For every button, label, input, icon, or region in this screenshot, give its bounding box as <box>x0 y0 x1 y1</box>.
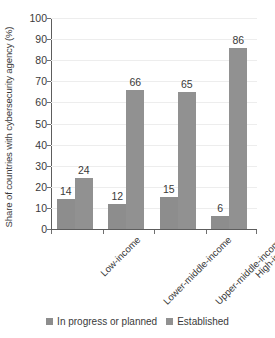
y-axis-title-container: Share of countries with cybersecurity ag… <box>0 14 18 240</box>
x-axis-tick <box>256 230 257 234</box>
y-axis-tick-label: 60 <box>21 97 47 108</box>
gridline <box>51 102 257 103</box>
y-axis-tick-label: 100 <box>21 13 47 24</box>
y-axis-tick <box>47 102 51 103</box>
legend-swatch-icon <box>166 318 173 325</box>
plot-area: 142412661565686 <box>51 18 257 230</box>
y-axis-tick <box>47 187 51 188</box>
legend-item[interactable]: Established <box>166 316 229 327</box>
gridline <box>51 145 257 146</box>
bar <box>108 204 126 229</box>
y-axis-tick <box>47 166 51 167</box>
y-axis-tick-label: 90 <box>21 34 47 45</box>
y-axis-tick-label: 40 <box>21 139 47 150</box>
y-axis-tick <box>47 81 51 82</box>
gridline <box>51 81 257 82</box>
bar-value-label: 14 <box>60 186 72 197</box>
bar <box>178 92 196 229</box>
y-axis-tick-label: 0 <box>21 224 47 235</box>
gridline <box>51 18 257 19</box>
gridline <box>51 60 257 61</box>
x-axis-tick <box>206 230 207 234</box>
y-axis-tick <box>47 145 51 146</box>
chart-legend: In progress or plannedEstablished <box>0 316 275 327</box>
y-axis-tick <box>47 124 51 125</box>
x-axis-tick <box>51 230 52 234</box>
y-axis-tick-label: 20 <box>21 181 47 192</box>
y-axis-tick-labels: 1009080706050403020100 <box>18 0 47 338</box>
x-axis-category-label: Low-income <box>98 234 142 278</box>
y-axis-tick-label: 70 <box>21 76 47 87</box>
y-axis-title: Share of countries with cybersecurity ag… <box>0 14 18 240</box>
y-axis-tick <box>47 18 51 19</box>
gridline <box>51 124 257 125</box>
bar <box>126 90 144 229</box>
bar <box>160 197 178 229</box>
x-axis-tick <box>154 230 155 234</box>
bar-chart: Share of countries with cybersecurity ag… <box>0 0 275 338</box>
bar-value-label: 66 <box>129 77 141 88</box>
legend-swatch-icon <box>46 318 53 325</box>
legend-item[interactable]: In progress or planned <box>46 316 157 327</box>
top-cut-off-fragment <box>8 0 268 4</box>
y-axis-tick-label: 30 <box>21 160 47 171</box>
gridline <box>51 39 257 40</box>
y-axis-tick-label: 80 <box>21 55 47 66</box>
y-axis-tick <box>47 208 51 209</box>
y-axis-tick <box>47 39 51 40</box>
bar-value-label: 12 <box>111 191 123 202</box>
bar-value-label: 6 <box>217 203 223 214</box>
bar-value-label: 86 <box>232 35 244 46</box>
bar <box>75 178 93 229</box>
bar-value-label: 15 <box>163 184 175 195</box>
legend-label: In progress or planned <box>57 316 157 327</box>
bar <box>57 199 75 229</box>
y-axis-tick-label: 10 <box>21 202 47 213</box>
bar <box>229 48 247 229</box>
bar-value-label: 65 <box>181 79 193 90</box>
x-axis-tick <box>103 230 104 234</box>
y-axis-tick-label: 50 <box>21 118 47 129</box>
bar-value-label: 24 <box>78 165 90 176</box>
legend-label: Established <box>177 316 229 327</box>
y-axis-tick <box>47 60 51 61</box>
bar <box>211 216 229 229</box>
